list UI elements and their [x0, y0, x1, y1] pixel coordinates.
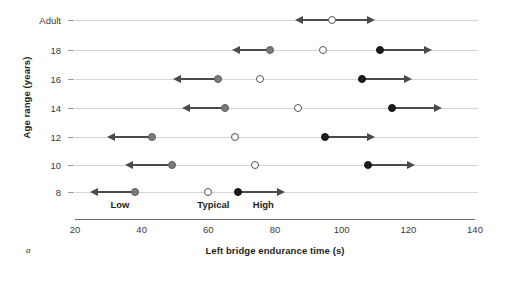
- data-point-low[interactable]: [214, 75, 222, 83]
- x-axis-tick-label: 20: [55, 224, 95, 235]
- data-point-low[interactable]: [148, 133, 156, 141]
- y-axis-tick-label: 12: [5, 132, 61, 143]
- range-arrow-shaft: [362, 78, 406, 80]
- chart-container: Age range (years) Left bridge endurance …: [0, 0, 511, 281]
- x-axis-line: [75, 219, 475, 220]
- y-axis-tick-label: 18: [5, 45, 61, 56]
- range-arrow-shaft: [96, 191, 135, 193]
- data-point-high[interactable]: [358, 75, 366, 83]
- y-axis-tick: [68, 165, 74, 166]
- y-axis-tick: [68, 20, 74, 21]
- x-axis-title: Left bridge endurance time (s): [75, 245, 475, 256]
- range-arrow-head: [424, 46, 432, 54]
- y-axis-tick-label: 8: [5, 187, 61, 198]
- data-point-low[interactable]: [266, 46, 274, 54]
- x-axis-tick-label: 80: [255, 224, 295, 235]
- data-point-typical[interactable]: [256, 75, 264, 83]
- gridline: [75, 20, 478, 21]
- range-arrow-head: [404, 75, 412, 83]
- range-arrow-head: [367, 133, 375, 141]
- range-arrow-head: [125, 161, 133, 169]
- range-arrow-head: [182, 104, 190, 112]
- data-point-high[interactable]: [321, 133, 329, 141]
- range-arrow-head: [434, 104, 442, 112]
- gridline: [75, 79, 478, 80]
- range-arrow-shaft: [113, 136, 152, 138]
- y-axis-tick-label: Adult: [5, 15, 61, 26]
- range-arrow-head: [295, 16, 303, 24]
- y-axis-tick-label: 14: [5, 103, 61, 114]
- y-axis-tick: [68, 79, 74, 80]
- range-arrow-shaft: [188, 107, 225, 109]
- data-point-low[interactable]: [168, 161, 176, 169]
- panel-letter: a: [26, 245, 31, 255]
- data-point-low[interactable]: [131, 188, 139, 196]
- y-axis-tick: [68, 108, 74, 109]
- data-point-typical[interactable]: [231, 133, 239, 141]
- range-arrow-shaft: [392, 107, 436, 109]
- range-arrow-head: [277, 188, 285, 196]
- data-point-typical[interactable]: [204, 188, 212, 196]
- range-arrow-head: [407, 161, 415, 169]
- data-point-typical[interactable]: [251, 161, 259, 169]
- x-axis-tick-label: 120: [388, 224, 428, 235]
- y-axis-tick: [68, 50, 74, 51]
- range-arrow-shaft: [131, 164, 172, 166]
- zone-label-typical: Typical: [197, 199, 229, 210]
- y-axis-tick: [68, 137, 74, 138]
- data-point-low[interactable]: [221, 104, 229, 112]
- data-point-high[interactable]: [364, 161, 372, 169]
- data-point-typical[interactable]: [294, 104, 302, 112]
- x-axis-tick-label: 100: [322, 224, 362, 235]
- range-arrow-head: [107, 133, 115, 141]
- range-arrow-shaft: [368, 164, 409, 166]
- range-arrow-head: [367, 16, 375, 24]
- range-arrow-shaft: [179, 78, 218, 80]
- y-axis-tick-label: 16: [5, 74, 61, 85]
- y-axis-tick-label: 10: [5, 160, 61, 171]
- x-axis-tick-label: 140: [455, 224, 495, 235]
- range-arrow-shaft: [325, 136, 369, 138]
- range-arrow-shaft: [332, 19, 369, 21]
- range-arrow-head: [232, 46, 240, 54]
- data-point-high[interactable]: [376, 46, 384, 54]
- y-axis-tick: [68, 192, 74, 193]
- range-arrow-head: [173, 75, 181, 83]
- data-point-typical[interactable]: [328, 16, 336, 24]
- range-arrow-head: [90, 188, 98, 196]
- data-point-typical[interactable]: [319, 46, 327, 54]
- data-point-high[interactable]: [388, 104, 396, 112]
- zone-label-low: Low: [111, 199, 130, 210]
- range-arrow-shaft: [380, 49, 426, 51]
- data-point-high[interactable]: [234, 188, 242, 196]
- range-arrow-shaft: [238, 191, 279, 193]
- x-axis-tick-label: 60: [188, 224, 228, 235]
- zone-label-high: High: [253, 199, 274, 210]
- x-axis-tick-label: 40: [122, 224, 162, 235]
